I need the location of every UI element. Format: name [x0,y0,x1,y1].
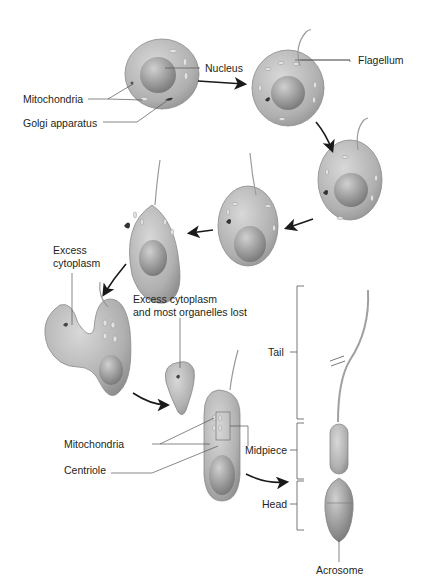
diagram-graphics [0,0,436,586]
brackets [290,286,304,530]
label-acrosome: Acrosome [316,564,363,576]
label-excess-cytoplasm-1: Excess [53,244,87,256]
label-midpiece: Midpiece [245,444,287,456]
cell-stage-5 [124,160,180,303]
cell-stage-6 [45,282,131,396]
label-mitochondria-top: Mitochondria [23,93,83,105]
label-excess-lost-2: and most organelles lost [133,306,247,318]
label-excess-cytoplasm-2: cytoplasm [53,257,100,269]
label-tail: Tail [268,346,284,358]
mature-sperm [325,290,368,542]
cell-stage-4 [218,153,278,266]
cell-stage-8 [204,350,240,501]
label-flagellum: Flagellum [358,54,404,66]
cell-stage-3 [318,118,382,220]
label-head: Head [262,498,287,510]
label-excess-lost-1: Excess cytoplasm [133,293,217,305]
cell-stage-2 [252,30,324,126]
label-nucleus: Nucleus [205,62,243,74]
label-centriole: Centriole [64,464,106,476]
residual-body [165,362,194,415]
label-mitochondria-bottom: Mitochondria [64,438,124,450]
spermiogenesis-diagram: Nucleus Flagellum Mitochondria Golgi app… [0,0,436,586]
label-golgi: Golgi apparatus [23,117,97,129]
cell-stage-1 [125,39,199,109]
